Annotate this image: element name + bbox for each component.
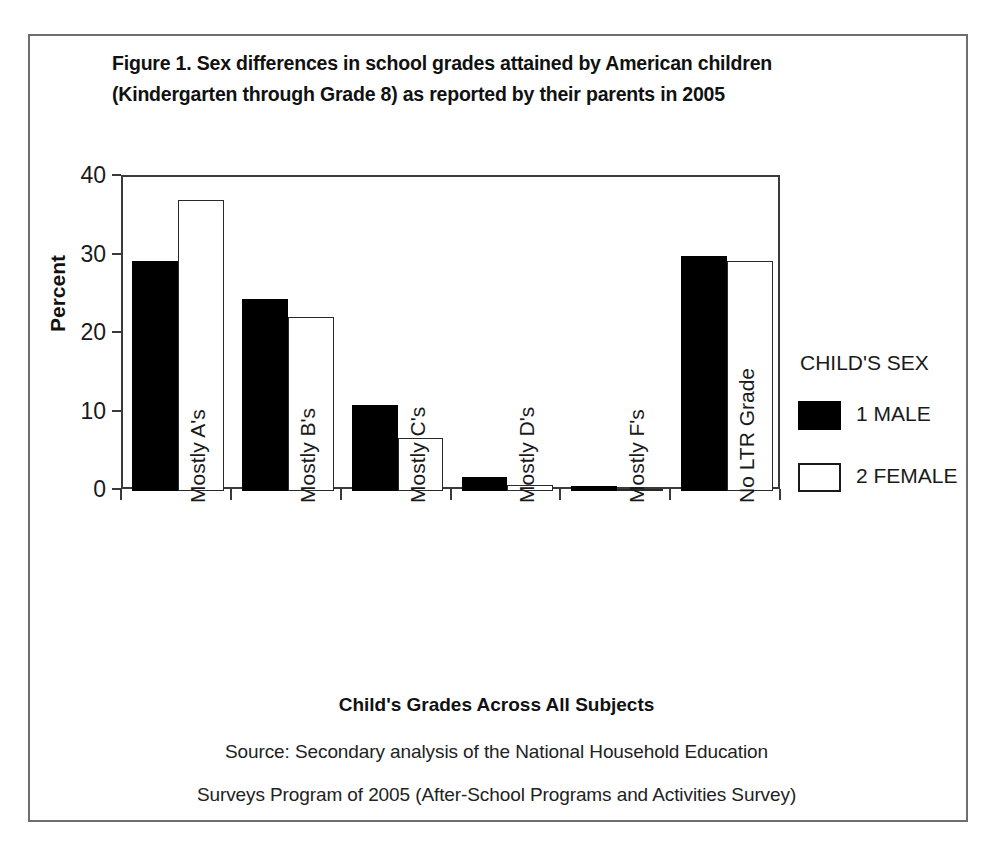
bar-male xyxy=(571,486,617,491)
x-category-label: Mostly F's xyxy=(625,409,649,503)
y-tick-mark xyxy=(112,253,121,255)
x-tick-mark xyxy=(450,489,452,500)
x-tick-mark xyxy=(669,489,671,500)
y-tick-label: 30 xyxy=(50,240,106,267)
y-tick-label: 40 xyxy=(50,162,106,189)
figure-title-line-1: Figure 1. Sex differences in school grad… xyxy=(112,52,772,74)
y-tick-label: 20 xyxy=(50,319,106,346)
y-tick-label: 0 xyxy=(50,476,106,503)
bar-male xyxy=(132,261,178,491)
source-line-1: Source: Secondary analysis of the Nation… xyxy=(0,741,993,763)
x-category-label: Mostly C's xyxy=(406,407,430,503)
x-category-label: Mostly B's xyxy=(296,408,320,503)
x-tick-mark xyxy=(559,489,561,500)
legend-label: 1 MALE xyxy=(856,402,931,426)
y-tick-mark xyxy=(112,331,121,333)
legend-title: CHILD'S SEX xyxy=(800,351,929,375)
x-tick-mark xyxy=(340,489,342,500)
legend-label: 2 FEMALE xyxy=(856,464,958,488)
x-category-label: Mostly A's xyxy=(186,409,210,503)
bars-layer xyxy=(123,177,778,487)
figure-title-line-2: (Kindergarten through Grade 8) as report… xyxy=(112,79,912,110)
x-tick-mark xyxy=(779,489,781,500)
y-tick-label: 10 xyxy=(50,397,106,424)
x-category-label: No LTR Grade xyxy=(735,368,759,503)
x-tick-mark xyxy=(120,489,122,500)
y-tick-mark xyxy=(112,174,121,176)
legend-swatch-female xyxy=(798,463,841,492)
x-category-label: Mostly D's xyxy=(515,407,539,503)
figure-root: Figure 1. Sex differences in school grad… xyxy=(0,0,993,846)
bar-male xyxy=(242,299,288,491)
bar-male xyxy=(681,256,727,491)
source-line-2: Surveys Program of 2005 (After-School Pr… xyxy=(0,784,993,806)
legend-swatch-male xyxy=(798,401,841,430)
plot-area xyxy=(121,175,780,489)
x-tick-mark xyxy=(230,489,232,500)
y-tick-mark xyxy=(112,410,121,412)
bar-male xyxy=(462,477,508,491)
figure-title: Figure 1. Sex differences in school grad… xyxy=(112,48,912,110)
x-axis-title: Child's Grades Across All Subjects xyxy=(0,694,993,716)
bar-male xyxy=(352,405,398,491)
